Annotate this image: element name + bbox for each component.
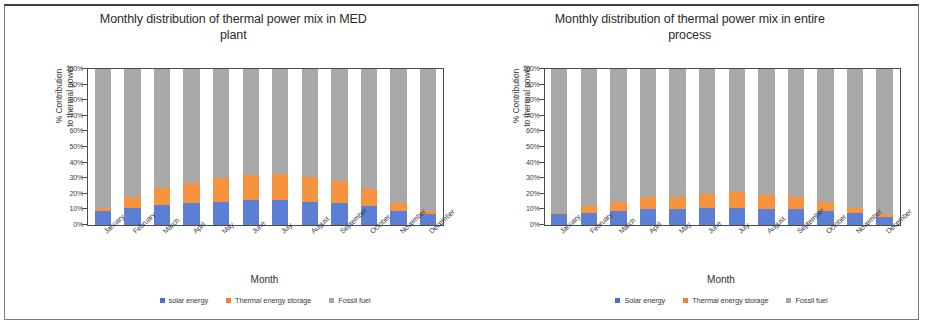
plot-area-med-plant (87, 68, 444, 226)
x-axis-tick: August (757, 227, 773, 273)
x-axis-tick: December (419, 227, 435, 273)
x-axis-title-med-plant: Month (87, 274, 442, 285)
figure-frame: Monthly distribution of thermal power mi… (4, 4, 919, 320)
bar-segment-fossil-fuel (154, 69, 170, 188)
bar-group-entire-process (545, 69, 900, 225)
bar-october (361, 69, 377, 225)
bar-february (124, 69, 140, 225)
x-axis-tick: September (330, 227, 346, 273)
bar-august (758, 69, 774, 225)
bar-may (669, 69, 685, 225)
plot-area-entire-process (544, 68, 901, 226)
legend-label: Thermal energy storage (235, 296, 311, 305)
bar-segment-fossil-fuel (699, 69, 715, 194)
x-axis-tick: November (846, 227, 862, 273)
legend-swatch-icon (786, 298, 791, 303)
bar-segment-thermal-energy-storage (331, 181, 347, 203)
bar-segment-thermal-energy-storage (669, 197, 685, 209)
bar-segment-fossil-fuel (183, 69, 199, 183)
x-axis-ticklabels-med-plant: JanuaryFebruaryMarchAprilMayJuneJulyAugu… (87, 227, 442, 273)
bar-march (154, 69, 170, 225)
bar-november (847, 69, 863, 225)
legend-label: Solar energy (624, 296, 665, 305)
bar-december (876, 69, 892, 225)
bar-segment-thermal-energy-storage (302, 177, 318, 202)
bar-segment-thermal-energy-storage (272, 174, 288, 201)
x-axis-tick: March (153, 227, 169, 273)
y-axis-ticklabels-entire-process: 100%90%80%70%60%50%40%30%20%10%0% (500, 63, 542, 229)
legend-entire-process: Solar energyThermal energy storageFossil… (522, 296, 922, 305)
legend-swatch-icon (160, 298, 165, 303)
x-axis-tick: October (360, 227, 376, 273)
x-axis-tick: January (550, 227, 566, 273)
x-axis-ticklabels-entire-process: JanuaryFebruaryMarchAprilMayJuneJulyAugu… (544, 227, 899, 273)
bar-segment-thermal-energy-storage (729, 192, 745, 208)
bar-september (788, 69, 804, 225)
legend-label: Thermal energy storage (692, 296, 768, 305)
x-axis-tick: February (580, 227, 596, 273)
bar-segment-thermal-energy-storage (361, 189, 377, 206)
bar-segment-fossil-fuel (817, 69, 833, 202)
bar-january (95, 69, 111, 225)
legend-item[interactable]: solar energy (160, 296, 208, 305)
bar-group-med-plant (88, 69, 443, 225)
bar-segment-thermal-energy-storage (154, 188, 170, 205)
x-axis-tick: April (639, 227, 655, 273)
bar-april (183, 69, 199, 225)
bar-segment-thermal-energy-storage (640, 197, 656, 209)
legend-item[interactable]: Thermal energy storage (683, 296, 768, 305)
x-axis-tick: January (94, 227, 110, 273)
legend-label: solar energy (169, 296, 208, 305)
bar-february (581, 69, 597, 225)
bar-segment-fossil-fuel (390, 69, 406, 203)
legend-swatch-icon (226, 298, 231, 303)
plot-wrap-med-plant: % Contribution to thermal power 100%90%8… (5, 6, 462, 319)
x-axis-tick: June (242, 227, 258, 273)
bar-segment-thermal-energy-storage (758, 195, 774, 209)
bar-march (610, 69, 626, 225)
bar-segment-fossil-fuel (272, 69, 288, 174)
x-axis-tick: October (816, 227, 832, 273)
bar-segment-fossil-fuel (213, 69, 229, 178)
bar-segment-thermal-energy-storage (243, 175, 259, 200)
x-axis-tick: July (728, 227, 744, 273)
bar-segment-thermal-energy-storage (213, 178, 229, 201)
legend-item[interactable]: Fossil fuel (329, 296, 370, 305)
x-axis-tick: July (271, 227, 287, 273)
bar-september (331, 69, 347, 225)
legend-item[interactable]: Solar energy (615, 296, 665, 305)
legend-swatch-icon (615, 298, 620, 303)
bar-segment-fossil-fuel (640, 69, 656, 197)
x-axis-tick: June (698, 227, 714, 273)
bar-january (551, 69, 567, 225)
bar-segment-fossil-fuel (729, 69, 745, 192)
bar-december (420, 69, 436, 225)
legend-swatch-icon (683, 298, 688, 303)
x-axis-tick: September (787, 227, 803, 273)
x-axis-tick: May (668, 227, 684, 273)
bar-segment-fossil-fuel (361, 69, 377, 189)
legend-label: Fossil fuel (795, 296, 827, 305)
bar-segment-thermal-energy-storage (390, 203, 406, 211)
bar-segment-thermal-energy-storage (610, 202, 626, 211)
bar-segment-thermal-energy-storage (183, 183, 199, 203)
bar-segment-thermal-energy-storage (788, 197, 804, 209)
bar-segment-fossil-fuel (610, 69, 626, 202)
bar-segment-fossil-fuel (758, 69, 774, 195)
bar-july (272, 69, 288, 225)
chart-panel-med-plant: Monthly distribution of thermal power mi… (5, 6, 462, 319)
bar-june (243, 69, 259, 225)
bar-segment-fossil-fuel (124, 69, 140, 197)
legend-item[interactable]: Thermal energy storage (226, 296, 311, 305)
x-axis-tick: May (212, 227, 228, 273)
x-axis-tick: August (301, 227, 317, 273)
bar-segment-fossil-fuel (551, 69, 567, 213)
legend-item[interactable]: Fossil fuel (786, 296, 827, 305)
x-axis-tick: April (182, 227, 198, 273)
bar-april (640, 69, 656, 225)
chart-panel-entire-process: Monthly distribution of thermal power mi… (462, 6, 919, 319)
y-axis-ticklabels-med-plant: 100%90%80%70%60%50%40%30%20%10%0% (43, 63, 85, 229)
x-axis-tick: November (389, 227, 405, 273)
legend-med-plant: solar energyThermal energy storageFossil… (65, 296, 465, 305)
bar-segment-thermal-energy-storage (124, 197, 140, 208)
